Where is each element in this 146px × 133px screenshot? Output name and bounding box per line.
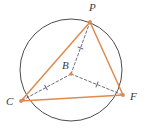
vertex-label-b: B (62, 60, 69, 71)
vertex-point-layer (19, 20, 125, 103)
segment-pc (21, 22, 90, 101)
vertex-label-f: F (130, 91, 137, 102)
circle-b (20, 19, 122, 121)
geometry-canvas (0, 0, 146, 133)
vertex-label-p: P (89, 2, 96, 13)
vertex-point-b (69, 72, 72, 75)
vertex-point-p (88, 20, 92, 24)
vertex-point-f (121, 93, 125, 97)
circle-layer (20, 19, 122, 121)
vertex-label-c: C (6, 96, 13, 107)
geometry-figure: P B C F (0, 0, 146, 133)
segment-cf (21, 95, 123, 101)
tick-mark-bp (78, 47, 83, 49)
vertex-point-c (19, 99, 23, 103)
